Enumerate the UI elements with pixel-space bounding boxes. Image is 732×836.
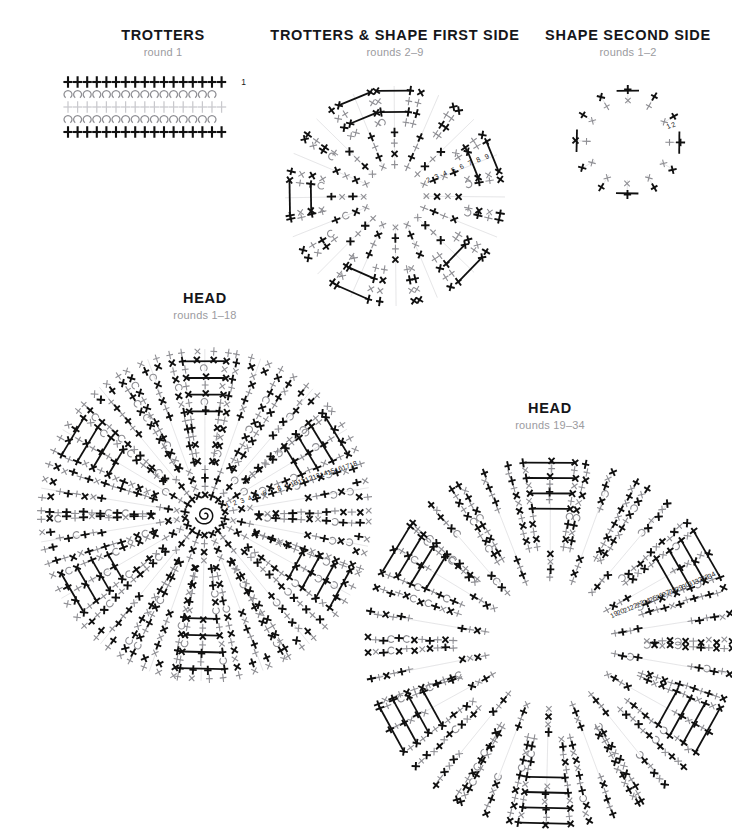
stitch-row-chart: 1	[48, 68, 273, 157]
round-number-label: 8	[276, 484, 283, 492]
panel-title: TROTTERS	[48, 28, 278, 43]
panel-subtitle: rounds 19–34	[452, 420, 648, 431]
round-number-label: 6	[458, 162, 465, 170]
chart-arm	[81, 527, 195, 659]
chart-arm	[617, 84, 639, 103]
chart-arm	[37, 512, 188, 566]
round-number-labels: 123456789101112131415161718	[224, 459, 358, 509]
chart-arm	[646, 92, 658, 109]
panel-head-rounds-19-34: HEAD rounds 19–34 1920212223242526272829…	[452, 401, 648, 836]
chart-trotters-shape-first-side[interactable]: 23456789	[267, 68, 526, 324]
stitch-row	[63, 101, 226, 112]
chart-arm	[414, 213, 486, 285]
chart-arm	[49, 521, 192, 621]
chart-arm	[588, 691, 687, 804]
chart-arm	[645, 174, 657, 191]
chart-arm	[578, 158, 596, 171]
chart-arm	[665, 131, 685, 153]
round-number-label: 2	[425, 175, 432, 183]
chart-arm	[208, 530, 287, 679]
panel-shape-second-side: SHAPE SECOND SIDE rounds 1–2 12	[528, 28, 728, 216]
round-number-label: 8	[475, 155, 482, 163]
round-number-label: 9	[483, 152, 490, 160]
round-number-label: 2	[232, 498, 239, 506]
chart-arm	[215, 373, 331, 503]
chart-arm	[519, 457, 579, 580]
chart-arm	[37, 461, 189, 518]
chart-arm	[597, 92, 610, 109]
panel-header: TROTTERS & SHAPE FIRST SIDE rounds 2–9	[264, 28, 526, 58]
round-number-label: 4	[246, 493, 253, 501]
chart-arm	[457, 701, 531, 824]
chart-arm	[579, 111, 596, 124]
stitch-row	[63, 126, 226, 137]
panel-subtitle: rounds 1–2	[528, 47, 728, 58]
round-number-label: 1	[224, 501, 231, 509]
chart-trotters[interactable]: 1	[48, 68, 278, 157]
chart-head-rounds-1-18[interactable]: 123456789101112131415161718	[21, 331, 325, 699]
panel-title: HEAD	[452, 401, 648, 416]
radial-stitch-chart: 19202122232425262728293031323334	[348, 441, 732, 836]
panel-header: SHAPE SECOND SIDE rounds 1–2	[528, 28, 728, 58]
panel-head-rounds-1-18: HEAD rounds 1–18 12345678910111213141516…	[85, 291, 325, 699]
round-number-label: 6	[261, 488, 268, 496]
magic-ring-spiral-icon	[196, 508, 213, 523]
chart-arm	[334, 221, 386, 304]
panel-header: HEAD rounds 1–18	[85, 291, 325, 321]
chart-arm	[515, 706, 574, 828]
stitch-row	[64, 115, 216, 122]
stitch-row	[64, 90, 216, 97]
radial-stitch-chart: 23456789	[267, 68, 523, 324]
chart-head-rounds-19-34[interactable]: 19202122232425262728293031323334	[348, 441, 648, 836]
round-number-label: 1	[241, 77, 246, 87]
radial-stitch-chart: 123456789101112131415161718	[21, 331, 389, 699]
panel-subtitle: round 1	[48, 47, 278, 58]
radial-stitch-chart: 12	[554, 68, 702, 216]
chart-arm	[219, 520, 362, 616]
chart-arm	[567, 700, 641, 823]
chart-arm	[365, 583, 489, 644]
panel-header: HEAD rounds 19–34	[452, 401, 648, 431]
chart-shape-second-side[interactable]: 12	[554, 68, 728, 216]
chart-arm	[660, 159, 677, 173]
panel-header: TROTTERS round 1	[48, 28, 278, 58]
panel-subtitle: rounds 1–18	[85, 310, 325, 321]
chart-arm	[572, 129, 591, 151]
chart-arm	[598, 174, 611, 191]
round-number-label: 3	[239, 496, 246, 504]
panel-title: SHAPE SECOND SIDE	[528, 28, 728, 43]
chart-arm	[287, 135, 370, 187]
chart-arm	[218, 407, 359, 508]
panel-title: TROTTERS & SHAPE FIRST SIDE	[264, 28, 526, 43]
chart-arm	[611, 641, 732, 702]
chart-arm	[588, 485, 691, 596]
panel-trotters: TROTTERS round 1 1	[48, 28, 278, 156]
round-number-label: 5	[254, 491, 261, 499]
panel-trotters-shape-first-side: TROTTERS & SHAPE FIRST SIDE rounds 2–9 2…	[264, 28, 526, 324]
panel-subtitle: rounds 2–9	[264, 47, 526, 58]
chart-arm	[174, 532, 228, 683]
chart-arm	[604, 670, 724, 754]
round-number-labels: 12	[665, 120, 676, 130]
chart-arm	[412, 690, 511, 803]
panel-title: HEAD	[85, 291, 325, 306]
chart-arm	[616, 179, 638, 198]
stitch-row	[63, 76, 226, 87]
